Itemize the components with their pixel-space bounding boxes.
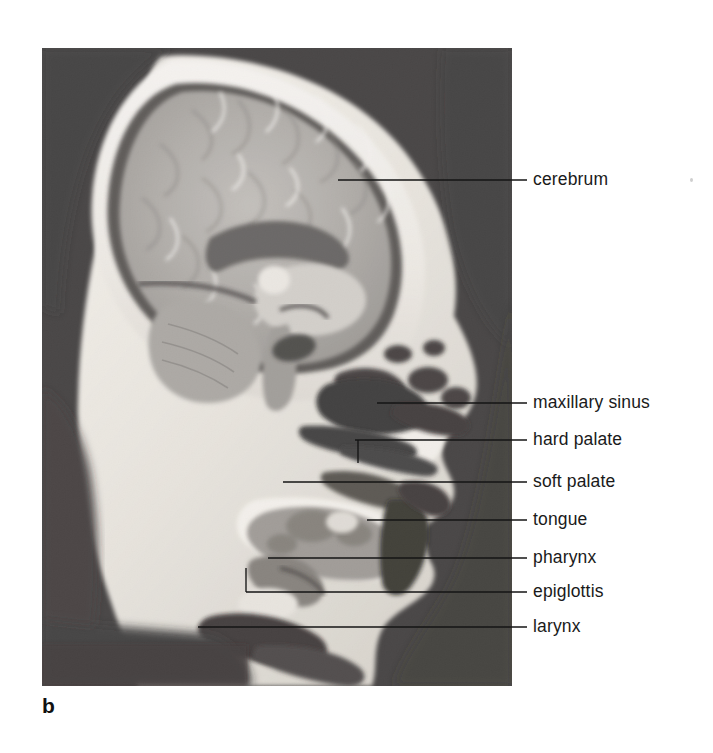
scan-speck: [690, 178, 693, 182]
sagittal-head-section-photo: [42, 48, 512, 686]
panel-letter-b: b: [42, 694, 55, 718]
label-maxillary-sinus: maxillary sinus: [533, 393, 650, 412]
label-hard-palate: hard palate: [533, 430, 622, 449]
label-larynx: larynx: [533, 617, 581, 636]
label-tongue: tongue: [533, 510, 587, 529]
label-epiglottis: epiglottis: [533, 582, 604, 601]
label-soft-palate: soft palate: [533, 472, 615, 491]
anatomy-figure: cerebrummaxillary sinushard palatesoft p…: [0, 0, 713, 753]
label-cerebrum: cerebrum: [533, 170, 608, 189]
label-pharynx: pharynx: [533, 548, 596, 567]
